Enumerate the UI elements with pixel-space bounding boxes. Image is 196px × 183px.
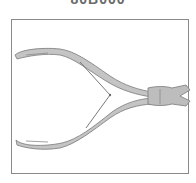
nail-nipper-icon — [0, 0, 196, 183]
